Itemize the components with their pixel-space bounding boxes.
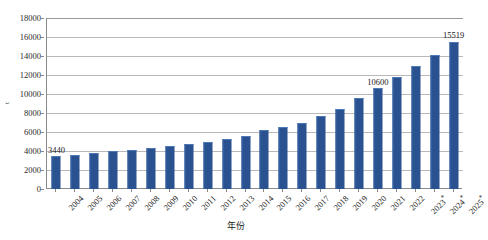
- y-axis-tick-mark: [41, 151, 44, 152]
- x-axis-tick-label: 2025*: [466, 194, 488, 216]
- x-axis-tick-mark: [263, 189, 264, 192]
- bar-slot: [66, 18, 85, 189]
- bar[interactable]: [146, 148, 155, 189]
- x-axis-tick-label: 2023*: [428, 194, 450, 216]
- bar[interactable]: [203, 142, 212, 189]
- bar-data-label: 15519: [443, 31, 464, 40]
- y-axis-tick-label: 18000: [20, 14, 41, 23]
- x-axis-tick-label: 2015: [275, 194, 293, 212]
- x-axis-tick-mark: [150, 189, 151, 192]
- bar[interactable]: [260, 130, 269, 189]
- bar[interactable]: [430, 55, 439, 189]
- y-axis-tick-mark: [41, 18, 44, 19]
- bar-slot: [47, 18, 66, 189]
- x-axis-tick-label: 2008: [143, 194, 161, 212]
- y-axis-tick-label: 2000: [24, 166, 41, 175]
- y-axis-tick-labels: 0200040006000800010000120001400016000180…: [0, 0, 44, 240]
- x-axis-title: 年份: [0, 222, 472, 231]
- x-axis-tick-label: 2018: [332, 194, 350, 212]
- y-axis-tick-mark: [41, 170, 44, 171]
- bar[interactable]: [184, 144, 193, 190]
- x-axis-tick-mark: [339, 189, 340, 192]
- y-axis-tick-mark: [41, 94, 44, 95]
- x-axis-tick-mark: [282, 189, 283, 192]
- x-axis-tick-mark: [131, 189, 132, 192]
- x-axis-tick-label: 2012: [219, 194, 237, 212]
- x-axis-tick-label: 2017: [313, 194, 331, 212]
- bar-slot: [293, 18, 312, 189]
- bar[interactable]: [298, 123, 307, 189]
- x-axis-tick-label: 2005: [86, 194, 104, 212]
- y-axis-tick-label: 12000: [20, 71, 41, 80]
- bar[interactable]: [109, 151, 118, 189]
- x-axis-tick-label: 2011: [200, 194, 218, 212]
- bar[interactable]: [241, 136, 250, 189]
- x-axis-tick-label: 2016: [294, 194, 312, 212]
- bar[interactable]: [222, 139, 231, 189]
- bar[interactable]: [373, 88, 382, 189]
- x-axis-tick-mark: [377, 189, 378, 192]
- x-axis-tick-label: 2024*: [447, 194, 469, 216]
- y-axis-tick-label: 8000: [24, 109, 41, 118]
- bar-data-label: 10600: [367, 78, 388, 87]
- bar-slot: [160, 18, 179, 189]
- x-axis-tick-mark: [245, 189, 246, 192]
- y-axis-tick-mark: [41, 189, 44, 190]
- bar-slot: [331, 18, 350, 189]
- y-axis-tick-label: 6000: [24, 128, 41, 137]
- x-axis-tick-mark: [74, 189, 75, 192]
- bar-slot: [123, 18, 142, 189]
- bar-slot: [104, 18, 123, 189]
- bar[interactable]: [411, 66, 420, 189]
- bar[interactable]: [392, 77, 401, 189]
- x-axis-tick-label: 2014: [257, 194, 275, 212]
- bar[interactable]: [279, 127, 288, 189]
- x-axis-tick-label: 2010: [181, 194, 199, 212]
- bar-slot: [198, 18, 217, 189]
- bar-slot: [236, 18, 255, 189]
- bar[interactable]: [71, 155, 80, 189]
- x-axis-tick-mark: [415, 189, 416, 192]
- x-axis-tick-mark: [169, 189, 170, 192]
- x-axis-tick-label: 2020: [370, 194, 388, 212]
- y-axis-tick-mark: [41, 132, 44, 133]
- x-axis-tick-mark: [188, 189, 189, 192]
- y-axis-tick-mark: [41, 37, 44, 38]
- y-axis-tick-mark: [41, 56, 44, 57]
- x-axis-tick-label: 2022: [408, 194, 426, 212]
- x-axis-tick-label: 2019: [351, 194, 369, 212]
- bar-slot: [255, 18, 274, 189]
- y-axis-title: t: [4, 102, 11, 104]
- bar-slot: [387, 18, 406, 189]
- bar-slot: [406, 18, 425, 189]
- bar-slot: [425, 18, 444, 189]
- x-axis-tick-label: 2021: [389, 194, 407, 212]
- x-axis-tick-mark: [453, 189, 454, 192]
- bar-slot: [217, 18, 236, 189]
- bar-slot: [368, 18, 387, 189]
- y-axis-tick-label: 10000: [20, 90, 41, 99]
- bar[interactable]: [449, 42, 458, 189]
- y-axis-tick-mark: [41, 113, 44, 114]
- x-axis-tick-label: 2013: [238, 194, 256, 212]
- y-axis-tick-mark: [41, 75, 44, 76]
- x-axis-tick-labels: 2004200520062007200820092010201120122013…: [46, 189, 462, 239]
- bar[interactable]: [165, 146, 174, 189]
- bar[interactable]: [354, 98, 363, 189]
- bar-slot: [312, 18, 331, 189]
- bar-slot: [350, 18, 369, 189]
- bar[interactable]: [128, 150, 137, 189]
- bar[interactable]: [336, 109, 345, 189]
- bar-data-label: 3440: [48, 146, 65, 155]
- x-axis-tick-mark: [226, 189, 227, 192]
- y-axis-tick-label: 16000: [20, 33, 41, 42]
- y-axis-tick-label: 14000: [20, 52, 41, 61]
- bar[interactable]: [52, 156, 61, 189]
- x-axis-tick-mark: [55, 189, 56, 192]
- bar[interactable]: [317, 116, 326, 189]
- bar[interactable]: [90, 153, 99, 189]
- x-axis-tick-mark: [396, 189, 397, 192]
- bar-slot: [85, 18, 104, 189]
- bar-slot: [142, 18, 161, 189]
